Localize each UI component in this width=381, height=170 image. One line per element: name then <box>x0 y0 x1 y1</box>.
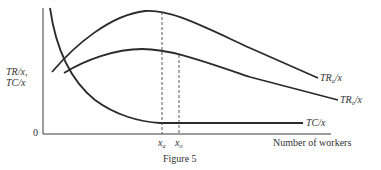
tr-a-label: TRa/x <box>320 73 342 84</box>
x-o-label-sub: o <box>179 143 182 149</box>
figure-caption: Figure 5 <box>163 154 197 164</box>
x-a-label: xa <box>158 138 165 149</box>
y-axis-label-line1: TR/x, <box>6 67 27 77</box>
origin-label: 0 <box>33 128 38 138</box>
tr-a-label-main: TR <box>320 72 332 83</box>
tr-a-label-tail: /x <box>335 72 342 83</box>
tc-label: TC/x <box>306 118 325 128</box>
x-a-label-sub: a <box>162 143 165 149</box>
tr-o-label: TRo/x <box>340 95 362 106</box>
y-axis-label-line2: TC/x <box>6 78 25 88</box>
tr-a-per-x-curve <box>52 11 318 78</box>
tr-o-per-x-curve <box>64 49 338 100</box>
x-axis-label: Number of workers <box>273 138 351 148</box>
tr-o-label-tail: /x <box>355 94 362 105</box>
tr-o-label-main: TR <box>340 94 352 105</box>
tc-per-x-curve <box>50 8 303 123</box>
x-o-label: xo <box>175 138 182 149</box>
